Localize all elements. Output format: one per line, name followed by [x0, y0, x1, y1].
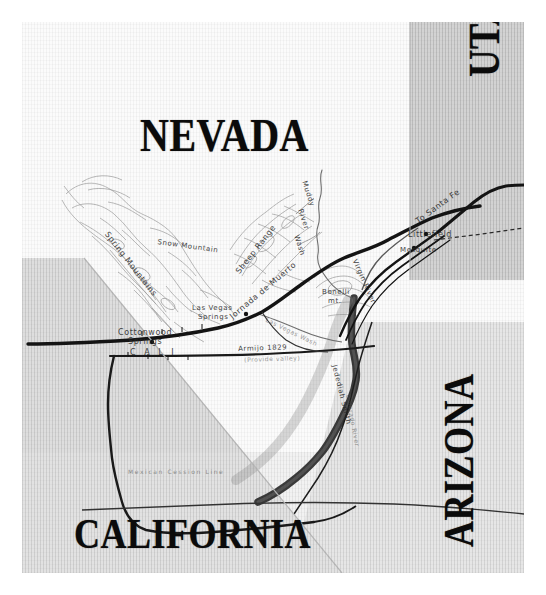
marker-las-vegas-springs [244, 312, 248, 316]
label-mexican-cession-line: Mexican Cession Line [128, 468, 224, 475]
label-armijo-1829: Armijo 1829 [238, 343, 287, 353]
label-las-vegas-springs-line1: Las Vegas [192, 304, 232, 312]
map-plate: NEVADA CALIFORNIA UTAH ARIZONA Spring Mo… [22, 22, 524, 573]
label-bonelli-line2: mt. [328, 297, 342, 305]
label-bonelli-line1: Bonelli [322, 288, 350, 296]
historical-map-figure: NEVADA CALIFORNIA UTAH ARIZONA Spring Mo… [0, 0, 546, 595]
label-littlefield: Littlefield [408, 230, 452, 239]
label-cottonwood-springs-line2: Springs [128, 337, 162, 346]
label-cottonwood-springs-line1: Cottonwood [118, 328, 172, 337]
state-label-nevada: NEVADA [140, 107, 309, 162]
label-mesquite: Mesquite [400, 246, 437, 254]
label-las-vegas-springs-line2: Springs [198, 313, 228, 321]
state-label-utah: UTAH [458, 22, 510, 77]
label-cali-trail: C A L I [130, 348, 177, 357]
state-label-arizona: ARIZONA [434, 373, 484, 547]
state-label-california: CALIFORNIA [74, 509, 311, 559]
